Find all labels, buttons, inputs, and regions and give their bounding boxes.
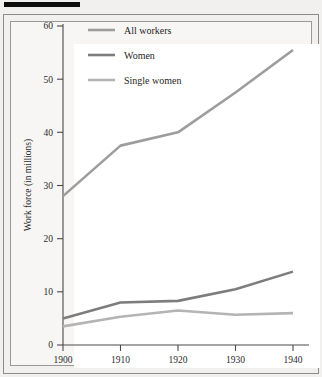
x-tick-label-1930: 1930 [226, 355, 245, 365]
series-line-single-women [63, 310, 293, 326]
y-tick-label-20: 20 [44, 234, 54, 244]
legend-label-single-women: Single women [124, 75, 182, 86]
legend-label-women: Women [124, 50, 155, 61]
x-tick-label-1920: 1920 [169, 355, 188, 365]
y-tick-label-0: 0 [48, 340, 53, 350]
series-group [63, 50, 293, 326]
x-ticks-group: 1900 1910 1920 1930 1940 [54, 345, 303, 365]
legend-label-all-workers: All workers [124, 25, 172, 36]
x-tick-label-1910: 1910 [111, 355, 130, 365]
axes-group [63, 24, 309, 345]
y-ticks-group: 60 50 40 30 20 10 0 [44, 21, 64, 350]
x-tick-label-1900: 1900 [54, 355, 73, 365]
line-chart: 60 50 40 30 20 10 0 1900 1910 1920 1930 [0, 0, 322, 377]
series-line-all-workers [63, 50, 293, 196]
y-tick-label-60: 60 [44, 21, 54, 31]
y-tick-label-50: 50 [44, 75, 54, 85]
y-axis-title: Work force (in millions) [23, 139, 34, 231]
y-tick-label-10: 10 [44, 287, 54, 297]
legend: All workers Women Single women [88, 25, 182, 86]
figure-container: 60 50 40 30 20 10 0 1900 1910 1920 1930 [0, 0, 322, 377]
y-tick-label-30: 30 [44, 181, 54, 191]
x-tick-label-1940: 1940 [284, 355, 303, 365]
y-tick-label-40: 40 [44, 128, 54, 138]
